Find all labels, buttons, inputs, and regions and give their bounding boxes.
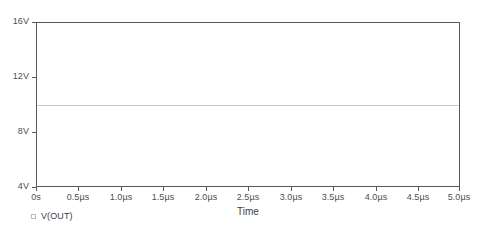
y-axis-tick-label: 16V xyxy=(13,16,29,26)
x-axis-tick-label: 1.5µs xyxy=(152,192,175,202)
trace-v-out xyxy=(37,105,459,106)
x-axis-tick-label: 2.5µs xyxy=(237,192,260,202)
x-axis-title: Time xyxy=(36,206,460,217)
x-axis-tick-mark xyxy=(333,187,334,191)
trace-layer xyxy=(37,23,459,186)
x-axis-tick-mark xyxy=(376,187,377,191)
x-axis-tick-mark xyxy=(248,187,249,191)
x-axis-tick-label: 4.0µs xyxy=(365,192,388,202)
x-axis-tick-label: 0s xyxy=(31,192,41,202)
y-axis-tick-label: 12V xyxy=(13,71,29,81)
y-axis-tick-label: 8V xyxy=(18,126,29,136)
x-axis-tick-label: 5.0µs xyxy=(448,192,471,202)
x-axis-tick-mark xyxy=(418,187,419,191)
x-axis-tick-mark xyxy=(163,187,164,191)
x-axis-tick-label: 4.5µs xyxy=(407,192,430,202)
x-axis-tick-label: 3.5µs xyxy=(322,192,345,202)
legend-square-icon xyxy=(31,214,36,219)
x-axis-tick-label: 3.0µs xyxy=(280,192,303,202)
x-axis-tick-mark xyxy=(78,187,79,191)
x-axis-tick-mark xyxy=(459,187,460,191)
x-axis-tick-mark xyxy=(121,187,122,191)
y-axis-tick-label: 4V xyxy=(18,181,29,191)
plot-area xyxy=(36,22,460,187)
x-axis-tick-mark xyxy=(206,187,207,191)
x-axis-tick-mark xyxy=(36,187,37,191)
legend-item-label[interactable]: V(OUT) xyxy=(41,211,73,221)
legend: V(OUT) xyxy=(31,211,73,221)
x-axis-tick-label: 1.0µs xyxy=(110,192,133,202)
x-axis-tick-label: 0.5µs xyxy=(67,192,90,202)
waveform-chart: 16V 12V 8V 4V 0s 0.5µs xyxy=(0,0,480,233)
x-axis-tick-label: 2.0µs xyxy=(195,192,218,202)
x-axis-tick-mark xyxy=(291,187,292,191)
